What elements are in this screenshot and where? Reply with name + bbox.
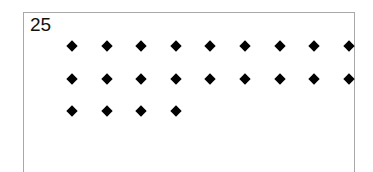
diamond-icon <box>205 73 216 84</box>
diamond-icon <box>274 73 285 84</box>
diamond-icon <box>66 105 77 116</box>
diamond-icon <box>170 105 181 116</box>
counting-card: 25 <box>23 12 355 172</box>
number-label: 25 <box>30 15 51 35</box>
diamond-icon <box>239 73 250 84</box>
diamond-icon <box>101 73 112 84</box>
diamond-icon <box>66 40 77 51</box>
diamond-icon <box>274 40 285 51</box>
diamond-icon <box>170 40 181 51</box>
diamond-icon <box>101 105 112 116</box>
diamond-icon <box>136 73 147 84</box>
diamond-icon <box>343 40 354 51</box>
diamond-icon <box>101 40 112 51</box>
diamond-icon <box>66 73 77 84</box>
diamond-icon <box>136 105 147 116</box>
diamond-icon <box>309 40 320 51</box>
diamond-icon <box>170 73 181 84</box>
diamond-icon <box>343 73 354 84</box>
diamond-icon <box>239 40 250 51</box>
diamond-icon <box>205 40 216 51</box>
diamond-icon <box>309 73 320 84</box>
diamond-icon <box>136 40 147 51</box>
